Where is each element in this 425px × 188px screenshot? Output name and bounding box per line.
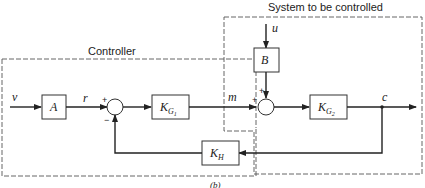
block-KG2: KG2 <box>310 95 347 119</box>
figure-caption: (b) <box>210 180 221 188</box>
signal-r-label: r <box>83 91 88 105</box>
sum1-minus-sign: − <box>104 115 109 125</box>
controller-label: Controller <box>88 45 136 57</box>
sum2-plus-top-sign: + <box>259 86 264 96</box>
signal-c-label: c <box>382 90 388 104</box>
block-A-label: A <box>49 100 58 114</box>
block-KG1: KG1 <box>152 95 189 119</box>
sum1-plus-sign: + <box>102 95 107 105</box>
block-A: A <box>42 95 66 119</box>
signal-u-label: u <box>272 21 278 35</box>
summing-junction-1: + − <box>102 95 123 125</box>
sum2-plus-left-sign: + <box>252 95 257 105</box>
block-B: B <box>254 48 279 72</box>
signal-v-label: v <box>12 90 18 104</box>
block-diagram: Controller System to be controlled v A r… <box>0 0 425 188</box>
summing-junction-2: + + <box>252 86 274 115</box>
plant-label: System to be controlled <box>268 1 383 13</box>
block-B-label: B <box>261 53 269 67</box>
signal-m-label: m <box>228 90 237 104</box>
feedback-line-to-sum1 <box>115 115 202 153</box>
block-KH: KH <box>202 141 239 165</box>
